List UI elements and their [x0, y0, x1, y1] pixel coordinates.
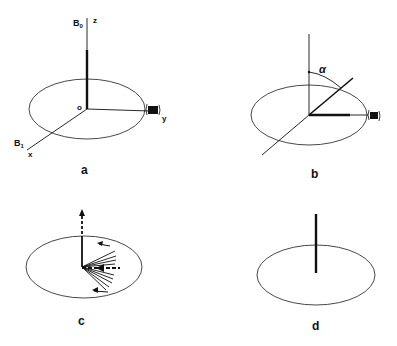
- x-axis-label: x: [28, 150, 33, 159]
- arc-endpoint: [308, 71, 310, 73]
- panel-label-d: d: [312, 319, 319, 333]
- nmr-precession-diagram: B0 z o y B1 x a α b: [0, 0, 397, 346]
- rf-coil-icon: [368, 110, 380, 121]
- y-axis-label: y: [162, 114, 167, 123]
- panel-c: c: [26, 209, 142, 328]
- panel-b: α b: [251, 34, 380, 181]
- tilted-vector: [309, 78, 353, 115]
- rf-coil-icon: [146, 104, 160, 115]
- b1-label: B1: [14, 138, 25, 149]
- b0-label: B0: [73, 18, 84, 29]
- panel-d: d: [257, 214, 375, 333]
- panel-label-b: b: [311, 167, 318, 181]
- panel-label-a: a: [81, 163, 88, 177]
- panel-label-c: c: [78, 314, 85, 328]
- origin-label: o: [77, 103, 82, 112]
- z-axis-label: z: [93, 16, 97, 25]
- rotation-arrowhead-top-icon: [97, 241, 103, 246]
- angle-alpha-label: α: [319, 63, 327, 75]
- y-axis-line: [87, 109, 150, 111]
- rotation-arrowhead-bottom-icon: [92, 287, 98, 293]
- dephasing-spin-fan: [82, 251, 116, 290]
- z-arrowhead-icon: [79, 209, 85, 216]
- panel-a: B0 z o y B1 x a: [14, 16, 167, 177]
- x-axis-line: [262, 115, 309, 155]
- x-axis-line: [27, 109, 87, 150]
